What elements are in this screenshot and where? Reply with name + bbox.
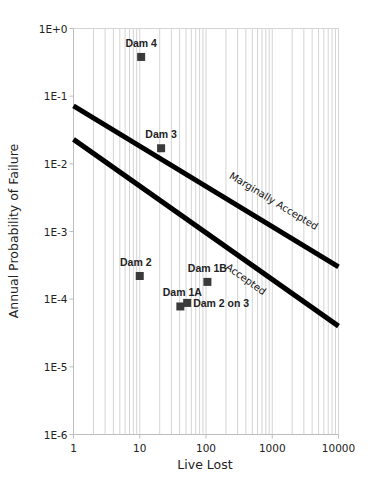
y-tick-label: 1E-2: [44, 158, 68, 170]
x-tick-label: 10000: [322, 442, 355, 454]
y-axis-label: Annual Probability of Failure: [6, 143, 21, 318]
data-point-label: Dam 4: [125, 37, 157, 49]
data-point-label: Dam 2: [120, 256, 152, 268]
data-point-marker: [176, 302, 184, 310]
data-point-marker: [157, 144, 165, 152]
data-point-marker: [136, 272, 144, 280]
x-tick-label: 1000: [259, 442, 286, 454]
x-tick-label: 100: [196, 442, 216, 454]
y-tick-label: 1E-4: [44, 293, 68, 305]
data-point-label: Dam 3: [145, 128, 177, 140]
data-point-marker: [203, 278, 211, 286]
x-tick-label: 1: [70, 442, 77, 454]
data-point-marker: [183, 299, 191, 307]
data-point-label: Dam 1B: [188, 262, 228, 274]
x-tick-label: 10: [133, 442, 146, 454]
y-tick-label: 1E-3: [44, 226, 68, 238]
axes: 1101001000100001E+01E-11E-21E-31E-41E-51…: [39, 23, 356, 454]
y-tick-label: 1E-5: [44, 361, 68, 373]
criteria-line-label: Marginally Accepted: [228, 170, 320, 232]
y-tick-label: 1E+0: [39, 23, 68, 35]
risk-chart: 1101001000100001E+01E-11E-21E-31E-41E-51…: [0, 0, 371, 486]
y-tick-label: 1E-6: [44, 429, 68, 441]
y-tick-label: 1E-1: [44, 90, 68, 102]
x-axis-label: Live Lost: [177, 457, 232, 472]
data-point-marker: [137, 53, 145, 61]
data-point-label: Dam 2 on 3: [193, 297, 249, 309]
